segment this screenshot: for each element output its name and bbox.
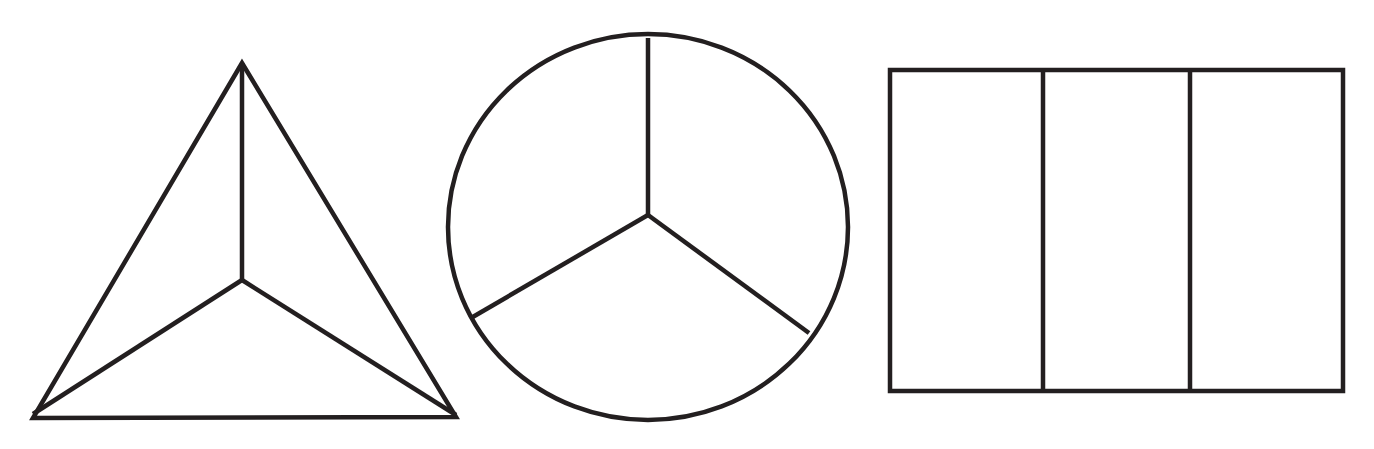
circle-shape [448, 34, 848, 420]
rectangle-shape [890, 70, 1343, 391]
triangle-shape [33, 63, 456, 418]
rectangle-outline [890, 70, 1343, 391]
triangle-divider-right [242, 280, 456, 415]
triangle-outline [33, 63, 456, 418]
three-shapes-in-thirds-figure [0, 0, 1374, 449]
triangle-divider-left [33, 280, 242, 414]
circle-divider-right [648, 215, 809, 333]
circle-divider-left [471, 215, 648, 318]
figure-canvas: Three shapes each divided into three equ… [0, 0, 1374, 449]
